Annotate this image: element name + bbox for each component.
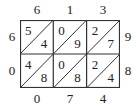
result-digit-left: 6 <box>6 30 18 43</box>
result-digit-left: 0 <box>6 64 18 77</box>
lattice-cell: 4 8 <box>20 54 53 88</box>
cell-tens-digit: 2 <box>92 58 99 71</box>
cell-tens-digit: 5 <box>25 24 32 37</box>
cell-ones-digit: 4 <box>107 71 114 84</box>
cell-tens-digit: 4 <box>25 58 32 71</box>
lattice-cell: 5 4 <box>20 20 53 54</box>
cell-ones-digit: 7 <box>107 37 114 50</box>
cell-ones-digit: 8 <box>41 71 48 84</box>
multiplier-digit: 8 <box>122 64 134 77</box>
lattice-cell: 0 8 <box>53 54 86 88</box>
cell-tens-digit: 0 <box>58 24 65 37</box>
result-digit-bottom: 4 <box>97 92 109 105</box>
lattice-cell: 0 9 <box>53 20 86 54</box>
result-digit-bottom: 0 <box>31 92 43 105</box>
lattice-cell: 2 4 <box>87 54 120 88</box>
multiplicand-digit: 6 <box>31 3 43 16</box>
multiplier-digit: 9 <box>122 30 134 43</box>
multiplicand-digit: 3 <box>97 3 109 16</box>
cell-ones-digit: 4 <box>41 37 48 50</box>
cell-ones-digit: 9 <box>74 37 81 50</box>
lattice-grid: 5 4 0 9 2 7 4 8 0 8 2 4 <box>20 20 120 88</box>
result-digit-bottom: 7 <box>64 92 76 105</box>
cell-tens-digit: 0 <box>58 58 65 71</box>
cell-ones-digit: 8 <box>74 71 81 84</box>
lattice-cell: 2 7 <box>87 20 120 54</box>
cell-tens-digit: 2 <box>92 24 99 37</box>
multiplicand-digit: 1 <box>64 3 76 16</box>
